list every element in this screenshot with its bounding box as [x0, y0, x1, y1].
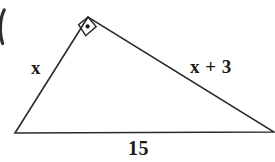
side-label-base: 15 [128, 138, 149, 158]
clipped-edge-artifact [0, 10, 4, 44]
triangle-outline [15, 17, 274, 133]
side-label-right-leg: x + 3 [190, 57, 232, 76]
side-label-left-leg: x [31, 58, 41, 77]
right-angle-dot-icon [85, 24, 89, 28]
triangle-figure: x x + 3 15 [0, 0, 275, 162]
